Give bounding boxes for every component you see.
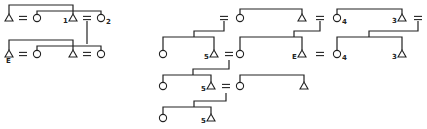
label-3-top: 3 (392, 17, 397, 25)
label-3-row2: 3 (392, 53, 397, 61)
label-e-right: E (292, 53, 297, 61)
label-5-row4: 5 (201, 117, 206, 125)
label-2: 2 (106, 18, 111, 26)
label-5-row3: 5 (201, 85, 206, 93)
label-4-row2: 4 (342, 54, 347, 62)
label-5-row2: 5 (204, 53, 209, 61)
label-1: 1 (63, 17, 68, 25)
label-e-left: E (6, 57, 11, 65)
label-4-top: 4 (342, 18, 347, 26)
symbols (5, 14, 422, 122)
